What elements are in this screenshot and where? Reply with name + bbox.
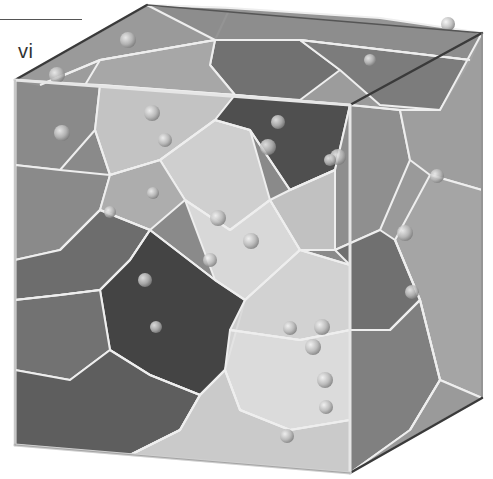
seed-sphere bbox=[260, 139, 276, 155]
seed-sphere bbox=[138, 273, 152, 287]
seed-sphere bbox=[49, 67, 65, 83]
seed-sphere bbox=[314, 319, 330, 335]
seed-sphere bbox=[144, 105, 160, 121]
seed-sphere bbox=[150, 321, 162, 333]
seed-sphere bbox=[271, 115, 285, 129]
seed-sphere bbox=[104, 206, 116, 218]
seed-sphere bbox=[397, 225, 413, 241]
seed-sphere bbox=[324, 154, 336, 166]
seed-sphere bbox=[364, 54, 376, 66]
seed-sphere bbox=[54, 125, 70, 141]
voronoi-cube-diagram bbox=[0, 0, 493, 479]
seed-sphere bbox=[405, 285, 419, 299]
seed-sphere bbox=[305, 339, 321, 355]
seed-sphere bbox=[441, 17, 455, 31]
seed-sphere bbox=[319, 400, 333, 414]
seed-sphere bbox=[317, 372, 333, 388]
seed-sphere bbox=[243, 233, 259, 249]
seed-sphere bbox=[283, 321, 297, 335]
seed-sphere bbox=[210, 210, 226, 226]
seed-sphere bbox=[147, 187, 159, 199]
seed-sphere bbox=[120, 32, 136, 48]
seed-sphere bbox=[203, 253, 217, 267]
seed-sphere bbox=[430, 169, 444, 183]
seed-sphere bbox=[158, 133, 172, 147]
seed-sphere bbox=[280, 429, 294, 443]
